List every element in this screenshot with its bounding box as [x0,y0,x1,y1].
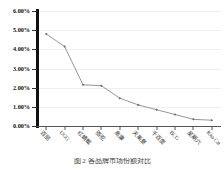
x-tick-label: 红蜻蜓 [76,130,92,146]
x-tick-label: 骆驼 [94,130,106,142]
x-tick-label: 千百度 [150,130,166,146]
figure-container: 6.00% 5.00% 4.00% 3.00% 2.00% 1.00% 0.00… [0,0,224,170]
data-point-marker [211,119,214,122]
x-tick-label: 星期六 [186,130,202,146]
x-tick-label: UGG [58,130,70,142]
x-tick-label: 天美意 [131,130,147,146]
data-point-marker [137,104,140,107]
x-tick-label: Kiss Cat [205,130,221,146]
x-tick-label: 百丽 [39,130,51,142]
data-point-marker [192,118,195,121]
series-polyline [46,34,212,120]
figure-caption: 图 2 各品牌市场份额对比 [0,158,224,166]
data-point-marker [155,108,158,111]
x-tick-label: 奥康 [113,130,125,142]
x-tick-label: BCG [168,130,180,142]
data-point-marker [174,113,177,116]
x-axis-tick-labels: 百丽UGG红蜻蜓骆驼奥康天美意千百度BCG星期六Kiss Cat [37,130,221,156]
